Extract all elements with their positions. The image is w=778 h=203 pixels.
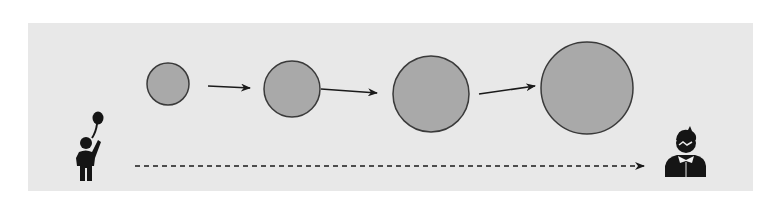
child-with-balloon-icon (76, 112, 104, 182)
arrow-1-icon (208, 86, 250, 88)
adult-person-icon (665, 126, 706, 177)
arrow-2-icon (321, 89, 377, 93)
arrow-3-icon (479, 86, 535, 94)
circle-stage-1 (147, 63, 189, 105)
circle-stage-4 (541, 42, 633, 134)
growth-diagram (0, 0, 778, 203)
growth-stage-circles (147, 42, 633, 134)
circle-stage-3 (393, 56, 469, 132)
progression-arrows (208, 86, 535, 94)
circle-stage-2 (264, 61, 320, 117)
